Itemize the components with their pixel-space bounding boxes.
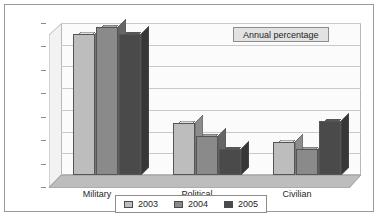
- y-axis-tick-mark: [41, 93, 46, 94]
- legend-swatch-icon: [174, 201, 183, 208]
- bar-side-face: [341, 113, 349, 175]
- bar-political-2005: [219, 149, 241, 175]
- legend-label: 2004: [188, 199, 208, 209]
- legend-swatch-icon: [224, 201, 233, 208]
- bar-front-face: [273, 142, 295, 175]
- bar-front-face: [119, 34, 141, 175]
- legend-swatch-icon: [124, 201, 133, 208]
- y-axis-tick-mark: [41, 46, 46, 47]
- plot-area: [49, 23, 361, 187]
- y-axis: 706050403020100: [5, 5, 45, 217]
- bar-top-face: [219, 141, 241, 149]
- bar-civilian-2003: [273, 142, 295, 175]
- bar-political-2004: [196, 136, 218, 175]
- bar-top-face: [119, 26, 141, 34]
- bar-top-face: [196, 128, 218, 136]
- y-axis-tick-mark: [41, 187, 46, 188]
- bar-side-face: [241, 141, 249, 175]
- chart-screenshot: 706050403020100 MilitaryPoliticalCivilia…: [0, 0, 379, 217]
- chart-floor: [49, 175, 361, 188]
- bar-top-face: [296, 141, 318, 149]
- bar-military-2005: [119, 34, 141, 175]
- bar-side-face: [141, 26, 149, 175]
- bar-military-2003: [73, 34, 95, 175]
- y-axis-tick-mark: [41, 117, 46, 118]
- figure-frame: 706050403020100 MilitaryPoliticalCivilia…: [4, 4, 374, 212]
- bar-front-face: [319, 121, 341, 175]
- bar-top-face: [96, 19, 118, 27]
- y-axis-tick-mark: [41, 140, 46, 141]
- y-axis-tick-mark: [41, 70, 46, 71]
- bar-military-2004: [96, 27, 118, 175]
- bar-front-face: [73, 34, 95, 175]
- legend-item-2004[interactable]: 2004: [174, 199, 208, 209]
- bar-top-face: [173, 115, 195, 123]
- y-axis-tick-mark: [41, 164, 46, 165]
- chart-legend: 200320042005: [115, 195, 267, 213]
- bar-front-face: [96, 27, 118, 175]
- bar-top-face: [73, 26, 95, 34]
- bar-front-face: [296, 149, 318, 175]
- legend-label: 2003: [138, 199, 158, 209]
- y-axis-tick-mark: [41, 23, 46, 24]
- bar-top-face: [319, 113, 341, 121]
- bar-front-face: [219, 149, 241, 175]
- bar-front-face: [196, 136, 218, 175]
- legend-item-2005[interactable]: 2005: [224, 199, 258, 209]
- bar-top-face: [273, 134, 295, 142]
- bar-civilian-2005: [319, 121, 341, 175]
- legend-label: 2005: [238, 199, 258, 209]
- legend-item-2003[interactable]: 2003: [124, 199, 158, 209]
- annotation-label: Annual percentage: [233, 27, 329, 42]
- bar-civilian-2004: [296, 149, 318, 175]
- bar-political-2003: [173, 123, 195, 175]
- bar-front-face: [173, 123, 195, 175]
